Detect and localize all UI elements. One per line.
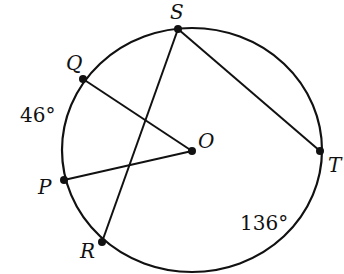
label-R: R — [79, 239, 95, 263]
segment-SR — [102, 29, 178, 242]
point-P — [60, 176, 68, 184]
label-O: O — [198, 129, 214, 153]
point-R — [98, 238, 106, 246]
label-T: T — [328, 153, 343, 177]
label-Q: Q — [66, 51, 82, 75]
point-T — [316, 147, 324, 155]
label-P: P — [37, 175, 52, 199]
point-S — [174, 25, 182, 33]
segment-PO — [64, 151, 192, 180]
circle-diagram: S Q P R T O 46° 136° — [0, 0, 344, 274]
arc-label-PQ: 46° — [20, 103, 55, 127]
point-Q — [79, 75, 87, 83]
label-S: S — [170, 0, 184, 24]
arc-label-RT: 136° — [240, 211, 288, 235]
point-O — [188, 147, 196, 155]
